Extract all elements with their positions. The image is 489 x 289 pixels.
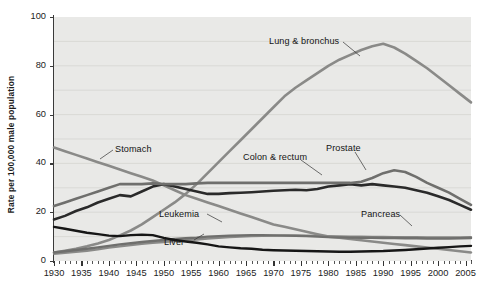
annotation-leader-lines bbox=[0, 0, 489, 289]
annotation-stomach: Stomach bbox=[115, 144, 152, 154]
leader-line-0 bbox=[343, 42, 360, 56]
annotation-pancreas: Pancreas bbox=[361, 209, 400, 219]
annotation-colon-rectum: Colon & rectum bbox=[243, 152, 307, 162]
annotation-prostate: Prostate bbox=[326, 143, 361, 153]
annotation-lung-bronchus: Lung & bronchus bbox=[269, 36, 339, 46]
leader-line-4 bbox=[207, 214, 222, 222]
leader-line-6 bbox=[194, 234, 204, 240]
cancer-death-rate-chart: Rate per 100,000 male population 0204060… bbox=[0, 0, 489, 289]
leader-line-2 bbox=[301, 160, 322, 175]
annotation-liver: Liver bbox=[164, 237, 184, 247]
leader-line-5 bbox=[400, 215, 412, 226]
annotation-leukemia: Leukemia bbox=[159, 209, 199, 219]
leader-line-1 bbox=[100, 150, 113, 159]
leader-line-3 bbox=[355, 152, 366, 170]
